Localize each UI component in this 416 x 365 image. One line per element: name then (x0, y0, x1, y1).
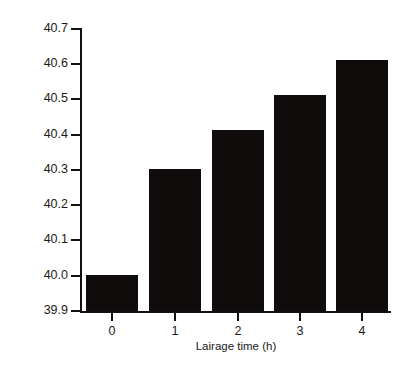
y-tick-mark (71, 275, 80, 277)
x-axis-line (80, 311, 391, 313)
y-tick-label-wrap: 40.7 (28, 22, 68, 34)
y-tick-label: 40.5 (32, 92, 68, 104)
y-tick-mark (71, 98, 80, 100)
y-tick-mark (71, 169, 80, 171)
x-tick-label: 4 (342, 324, 382, 338)
y-tick-mark (71, 63, 80, 65)
y-tick-label-wrap: 40.6 (28, 57, 68, 69)
x-tick-mark (111, 313, 113, 321)
y-tick-label-wrap: 39.9 (28, 304, 68, 316)
y-tick-label: 40.0 (32, 269, 68, 281)
bar-category-2 (212, 130, 264, 311)
x-tick-mark (237, 313, 239, 321)
x-tick-label: 1 (155, 324, 195, 338)
y-tick-label: 40.6 (32, 57, 68, 69)
x-tick-label: 2 (218, 324, 258, 338)
x-axis-title: Lairage time (h) (80, 340, 392, 352)
y-tick-label: 40.3 (32, 163, 68, 175)
x-tick-mark (174, 313, 176, 321)
y-axis-line (80, 28, 82, 313)
y-tick-label-wrap: 40.1 (28, 233, 68, 245)
y-tick-mark (71, 204, 80, 206)
y-tick-label: 40.4 (32, 128, 68, 140)
bar-category-3 (274, 95, 326, 311)
x-tick-mark (361, 313, 363, 321)
y-tick-mark (71, 28, 80, 30)
y-tick-label: 40.1 (32, 233, 68, 245)
y-tick-label-wrap: 40.3 (28, 163, 68, 175)
x-tick-label: 0 (92, 324, 132, 338)
x-tick-mark (299, 313, 301, 321)
y-tick-label: 40.2 (32, 198, 68, 210)
bar-category-4 (336, 60, 388, 311)
y-tick-mark (71, 134, 80, 136)
y-tick-mark (71, 310, 80, 312)
chart-figure: Body temperature (°C) 39.9 40.0 40.1 40.… (0, 0, 416, 365)
y-tick-label-wrap: 40.5 (28, 92, 68, 104)
x-tick-label: 3 (280, 324, 320, 338)
y-tick-label: 40.7 (32, 22, 68, 34)
y-tick-label-wrap: 40.4 (28, 128, 68, 140)
y-tick-mark (71, 239, 80, 241)
y-tick-label-wrap: 40.0 (28, 269, 68, 281)
plot-area: 39.9 40.0 40.1 40.2 40.3 40.4 40.5 40.6 (0, 0, 416, 365)
bar-category-1 (149, 169, 201, 311)
y-tick-label-wrap: 40.2 (28, 198, 68, 210)
y-tick-label: 39.9 (32, 304, 68, 316)
bar-category-0 (86, 275, 138, 311)
